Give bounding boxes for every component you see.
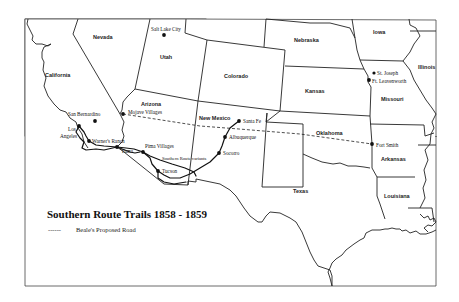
state-label-arizona: Arizona <box>141 101 162 107</box>
state-label-iowa: Iowa <box>373 29 386 35</box>
city-label-socorro: Socorro <box>223 150 240 156</box>
city-dot-fort-smith <box>370 142 374 146</box>
city-label-pima-villages: Pima Villages <box>145 143 174 149</box>
city-label-southern-route-variants: Southern Route variants <box>162 156 207 161</box>
city-label-ft-leavenworth: Ft. Leavenworth <box>372 78 407 84</box>
legend-label: Beale's Proposed Road <box>76 226 136 233</box>
city-label-st-joseph: St. Joseph <box>377 70 398 76</box>
state-label-new-mexico: New Mexico <box>199 115 231 121</box>
city-dot-yuma <box>115 145 119 149</box>
city-dot-san-bernardino <box>93 119 97 123</box>
city-label-fort-smith: Fort Smith <box>376 142 399 148</box>
state-label-utah: Utah <box>160 54 173 60</box>
state-label-arkansas: Arkansas <box>381 156 406 162</box>
state-label-nebraska: Nebraska <box>294 37 320 43</box>
state-label-california: California <box>45 72 71 78</box>
state-label-missouri: Missouri <box>381 96 404 102</box>
city-label-warners-ranch: Warner's Ranch <box>92 138 125 144</box>
city-dot-santa-fe <box>237 119 241 123</box>
city-label-los: Los <box>68 126 76 132</box>
state-label-kansas: Kansas <box>305 88 325 94</box>
city-dot-tucson <box>156 169 160 173</box>
city-dot-warners-ranch <box>87 139 91 143</box>
city-dot-st-joseph <box>372 71 375 74</box>
city-label-angeles: Angeles <box>60 133 77 139</box>
city-label-mojave-villages: Mojave Villages <box>128 109 162 115</box>
city-label-yuma: Yuma <box>121 148 134 154</box>
city-label-tucson: Tucson <box>162 168 177 174</box>
city-label-albuquerque: Albuquerque <box>229 134 257 140</box>
map-title: Southern Route Trails 1858 - 1859 <box>47 208 208 220</box>
city-dot-ft-leavenworth <box>367 78 371 82</box>
city-dot-los-angeles <box>77 124 81 128</box>
city-dot-albuquerque <box>223 135 227 139</box>
state-label-oklahoma: Oklahoma <box>316 130 344 136</box>
state-label-louisiana: Louisiana <box>384 193 411 199</box>
city-dot-salt-lake-city <box>162 33 166 37</box>
state-label-texas: Texas <box>293 188 308 194</box>
state-label-colorado: Colorado <box>224 73 249 79</box>
city-label-salt-lake-city: Salt Lake City <box>151 26 181 32</box>
state-label-illinois: Illinois <box>418 64 435 70</box>
city-dot-mojave-villages <box>121 112 125 116</box>
state-label-nevada: Nevada <box>93 34 114 40</box>
city-dot-socorro <box>217 151 221 155</box>
city-dot-pima-villages <box>141 150 145 154</box>
southern-route-trails-map: Nevada California Utah Arizona Colorado … <box>0 0 459 302</box>
city-label-san-bernardino: San Bernardino <box>68 111 101 117</box>
city-label-santa-fe: Santa Fe <box>243 118 262 124</box>
legend-symbol: ------ <box>48 226 61 233</box>
